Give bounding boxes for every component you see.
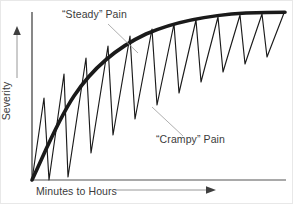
up-arrow-icon — [13, 26, 21, 35]
crampy-pain-curve — [32, 13, 284, 180]
y-axis-label: Severity — [0, 82, 12, 121]
crampy-label-leader-line — [152, 107, 183, 136]
right-arrow-icon — [206, 186, 216, 194]
pain-severity-plot — [0, 0, 294, 205]
x-axis-label: Minutes to Hours — [36, 185, 117, 197]
crampy-pain-label: “Crampy” Pain — [156, 133, 225, 145]
figure-container: “Steady” Pain “Crampy” Pain Minutes to H… — [0, 0, 294, 205]
steady-pain-label: “Steady” Pain — [62, 8, 127, 20]
